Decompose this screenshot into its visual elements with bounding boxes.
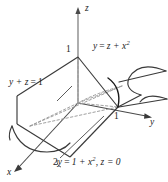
leader-lines-group	[57, 86, 104, 167]
hidden-edges-group	[30, 57, 122, 126]
cylinder-equation-label: y=z + x2	[93, 40, 130, 52]
plane-label-leader	[57, 86, 72, 101]
plane-eq-sign: =	[31, 77, 36, 87]
cyl-eq-lhs: y	[93, 41, 97, 51]
figure-root: z y x 1 1 y + z=1 y=z + x2 2y=1 + x2, z …	[0, 0, 168, 182]
trace-eq-plane: z = 0	[101, 157, 121, 167]
cylinder-front-parabola-tail	[9, 126, 12, 140]
cylinder-rim-upper	[128, 67, 166, 95]
trace-eq-var: y	[58, 157, 62, 167]
hidden-origin-to-left-base	[30, 103, 78, 126]
diagram-canvas	[0, 0, 168, 182]
cyl-eq-sign: =	[99, 41, 104, 51]
plane-surface-group	[17, 57, 118, 157]
trace-eq-sign: =	[64, 157, 69, 167]
y-axis-tick-one: 1	[114, 112, 119, 122]
y-axis-label: y	[150, 118, 154, 128]
cyl-eq-exponent: 2	[126, 39, 129, 46]
cylinder-plane-intersection-curve	[108, 78, 119, 107]
cyl-eq-rhs: z + x	[107, 41, 127, 51]
trace-equation-label: 2y=1 + x2, z = 0	[53, 156, 121, 168]
plane-equation-label: y + z=1	[9, 78, 43, 88]
cylinder-ruling-top	[119, 71, 166, 82]
z-axis-label: z	[85, 4, 89, 14]
trace-label-leader	[60, 116, 104, 158]
plane-eq-rhs: 1	[38, 77, 43, 87]
plane-eq-lhs: y + z	[9, 77, 29, 87]
x-axis-label: x	[7, 168, 11, 178]
hidden-base-near-edge	[30, 107, 118, 126]
trace-eq-rhs: 1 + x	[72, 157, 93, 167]
z-axis-arrowhead	[75, 7, 80, 14]
plane-edge-bottom-right	[70, 107, 118, 157]
z-axis-tick-one: 1	[66, 45, 71, 55]
